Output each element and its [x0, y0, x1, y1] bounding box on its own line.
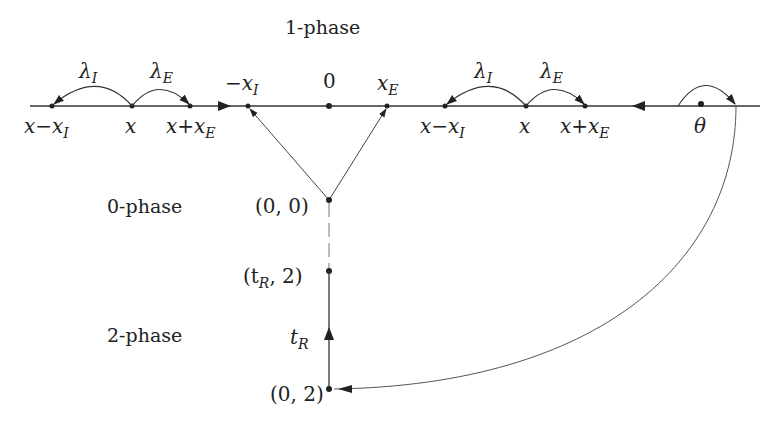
label-x-minus-xI-right: x−xI — [420, 114, 465, 141]
node-0-2 — [326, 386, 332, 392]
label-xE: xE — [377, 71, 399, 98]
theta-arc — [678, 85, 735, 106]
jump-arc-lambda-E-left — [132, 89, 189, 106]
node-neg-xI — [246, 104, 251, 109]
label-2-phase: 2-phase — [107, 324, 182, 346]
label-tR-2: (tR, 2) — [243, 264, 303, 291]
node-theta — [698, 101, 704, 107]
label-zero: 0 — [323, 69, 336, 93]
label-x-plus-xE-left: x+xE — [166, 114, 216, 141]
label-lambda-I-left: λI — [78, 59, 98, 86]
node-xE — [385, 104, 390, 109]
return-curve-to-02 — [334, 106, 736, 389]
label-x-minus-xI-left: x−xI — [24, 114, 69, 141]
edge-origin-to-neg-xI — [250, 109, 329, 200]
node-x-minus-xI-left — [50, 104, 55, 109]
right-jump-group — [443, 86, 588, 108]
label-0-phase: 0-phase — [107, 195, 182, 217]
node-zero — [326, 103, 332, 109]
label-lambda-E-right: λE — [539, 59, 563, 86]
return-arrow-left-icon — [338, 385, 352, 393]
vertical-arrow-up-icon — [324, 327, 334, 340]
diagram-canvas: 1-phase 0-phase 2-phase λI λE x−xI x x+x… — [0, 0, 781, 432]
label-1-phase: 1-phase — [285, 16, 360, 38]
axis-arrow-right-icon — [218, 101, 231, 111]
label-lambda-E-left: λE — [149, 59, 173, 86]
label-x-plus-xE-right: x+xE — [560, 114, 610, 141]
label-tR: tR — [290, 325, 309, 352]
axis-arrow-left-icon — [632, 101, 645, 111]
label-x-right: x — [519, 114, 530, 138]
label-x-left: x — [125, 114, 136, 138]
node-origin-00 — [326, 197, 332, 203]
jump-arc-lambda-I-left — [54, 86, 132, 106]
label-neg-xI: −xI — [225, 71, 259, 98]
node-x-plus-xE-right — [583, 104, 588, 109]
label-lambda-I-right: λI — [473, 59, 493, 86]
edge-origin-to-xE — [329, 109, 386, 200]
node-x-plus-xE-left — [188, 104, 193, 109]
jump-arc-lambda-E-right — [526, 89, 584, 106]
label-origin-00: (0, 0) — [255, 194, 309, 218]
jump-arc-lambda-I-right — [447, 86, 526, 106]
label-theta: θ — [694, 114, 706, 138]
left-jump-group — [50, 86, 193, 108]
label-0-2: (0, 2) — [270, 382, 324, 406]
node-x-minus-xI-right — [443, 104, 448, 109]
